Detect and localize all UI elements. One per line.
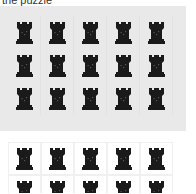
answer-tile[interactable] [8, 175, 41, 193]
chess-rook-icon [49, 21, 66, 45]
puzzle-tile[interactable] [74, 82, 107, 115]
chess-rook-icon [82, 21, 99, 45]
chess-rook-icon [82, 180, 99, 194]
answer-tile[interactable] [140, 175, 173, 193]
answer-tile[interactable] [107, 175, 140, 193]
puzzle-tile[interactable] [8, 16, 41, 49]
answer-tile[interactable] [74, 175, 107, 193]
puzzle-tile[interactable] [140, 82, 173, 115]
puzzle-tile[interactable] [41, 16, 74, 49]
answer-tile[interactable] [140, 142, 173, 175]
answer-tile[interactable] [41, 175, 74, 193]
answer-tile[interactable] [41, 142, 74, 175]
chess-rook-icon [49, 54, 66, 78]
puzzle-panel [0, 6, 186, 131]
chess-rook-icon [49, 87, 66, 111]
answer-tile[interactable] [107, 142, 140, 175]
chess-rook-icon [82, 54, 99, 78]
chess-rook-icon [115, 21, 132, 45]
chess-rook-icon [115, 87, 132, 111]
chess-rook-icon [82, 147, 99, 171]
puzzle-tile[interactable] [41, 82, 74, 115]
chess-rook-icon [148, 21, 165, 45]
answer-grid [8, 142, 173, 193]
chess-rook-icon [148, 147, 165, 171]
chess-rook-icon [16, 147, 33, 171]
chess-rook-icon [115, 180, 132, 194]
chess-rook-icon [148, 87, 165, 111]
chess-rook-icon [115, 147, 132, 171]
chess-rook-icon [148, 54, 165, 78]
puzzle-tile[interactable] [140, 49, 173, 82]
puzzle-grid [8, 16, 173, 115]
chess-rook-icon [16, 180, 33, 194]
puzzle-tile[interactable] [8, 82, 41, 115]
answer-tile[interactable] [8, 142, 41, 175]
chess-rook-icon [115, 54, 132, 78]
puzzle-tile[interactable] [74, 49, 107, 82]
puzzle-tile[interactable] [41, 49, 74, 82]
chess-rook-icon [49, 180, 66, 194]
puzzle-tile[interactable] [107, 49, 140, 82]
puzzle-tile[interactable] [8, 49, 41, 82]
answer-tile[interactable] [74, 142, 107, 175]
chess-rook-icon [49, 147, 66, 171]
chess-rook-icon [16, 21, 33, 45]
chess-rook-icon [82, 87, 99, 111]
puzzle-tile[interactable] [107, 16, 140, 49]
puzzle-tile[interactable] [74, 16, 107, 49]
chess-rook-icon [16, 54, 33, 78]
chess-rook-icon [148, 180, 165, 194]
chess-rook-icon [16, 87, 33, 111]
puzzle-tile[interactable] [107, 82, 140, 115]
puzzle-tile[interactable] [140, 16, 173, 49]
